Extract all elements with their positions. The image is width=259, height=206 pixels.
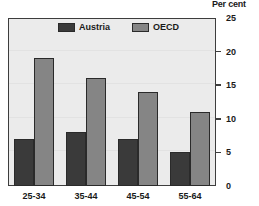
legend-item-austria: Austria xyxy=(58,22,110,32)
legend-swatch-icon xyxy=(58,23,75,32)
bar-austria-55-64 xyxy=(170,152,190,186)
y-tick-label: 25 xyxy=(226,13,236,23)
bar-oecd-25-34 xyxy=(34,58,54,186)
tick-mark-10 xyxy=(216,118,221,120)
chart-legend: AustriaOECD xyxy=(58,22,179,32)
bar-austria-35-44 xyxy=(66,132,86,186)
legend-swatch-icon xyxy=(132,23,149,32)
tick-mark-20 xyxy=(216,51,221,53)
x-tick-label-45-54: 45-54 xyxy=(126,191,149,201)
bar-oecd-45-54 xyxy=(138,92,158,186)
bar-oecd-55-64 xyxy=(190,112,210,186)
y-tick-label: 10 xyxy=(226,114,236,124)
legend-item-oecd: OECD xyxy=(132,22,179,32)
legend-label: Austria xyxy=(79,22,110,32)
y-tick-label: 5 xyxy=(226,147,231,157)
bars-layer xyxy=(8,18,216,186)
y-tick-label: 15 xyxy=(226,80,236,90)
bar-chart: Per cent 0510152025 25-3435-4445-5455-64… xyxy=(0,0,259,206)
bar-oecd-35-44 xyxy=(86,78,106,186)
bar-austria-45-54 xyxy=(118,139,138,186)
legend-label: OECD xyxy=(153,22,179,32)
x-tick-label-35-44: 35-44 xyxy=(74,191,97,201)
axis-title: Per cent xyxy=(212,0,246,9)
x-tick-label-55-64: 55-64 xyxy=(178,191,201,201)
tick-mark-15 xyxy=(216,84,221,86)
tick-mark-5 xyxy=(216,152,221,154)
y-tick-label: 0 xyxy=(226,181,231,191)
x-tick-label-25-34: 25-34 xyxy=(22,191,45,201)
y-tick-label: 20 xyxy=(226,47,236,57)
bar-austria-25-34 xyxy=(14,139,34,186)
